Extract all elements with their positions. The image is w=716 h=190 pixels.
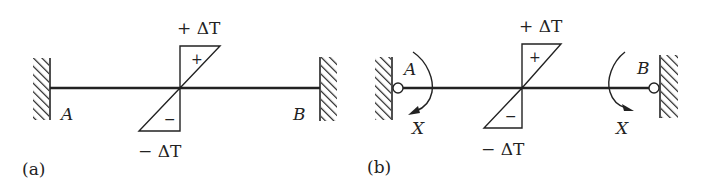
support-label-b-right: B	[292, 104, 306, 124]
support-label-b-b: B	[636, 58, 650, 78]
temperature-diagram-b	[484, 44, 561, 128]
support-label-a-b: A	[402, 59, 416, 79]
support-label-a-left: A	[59, 104, 73, 124]
temp-top-label-a: + ΔT	[177, 18, 221, 38]
temp-top-label-b: + ΔT	[519, 16, 563, 36]
temp-bottom-label-a: − ΔT	[138, 141, 182, 161]
caption-b: (b)	[367, 157, 391, 177]
wall-left-b	[375, 57, 392, 120]
sign-plus-a: +	[191, 51, 203, 67]
figure-canvas: + − + ΔT − ΔT A B (a) +	[0, 0, 716, 190]
hinge-left-icon	[393, 83, 403, 93]
fixed-support-left-a	[33, 58, 50, 120]
wall-right-b	[660, 55, 678, 118]
hinge-right-icon	[649, 83, 659, 93]
fixed-support-right-a	[320, 57, 337, 121]
moment-label-x-right: X	[614, 118, 629, 138]
caption-a: (a)	[22, 159, 45, 179]
sign-plus-b: +	[529, 49, 541, 65]
moment-arrow-right-icon	[609, 52, 634, 111]
panel-a: + − + ΔT − ΔT A B (a)	[22, 18, 337, 179]
moment-label-x-left: X	[410, 118, 425, 138]
panel-b: + − + ΔT − ΔT A B X X (b)	[367, 16, 678, 177]
sign-minus-b: −	[505, 108, 517, 124]
temp-bottom-label-b: − ΔT	[481, 139, 525, 159]
sign-minus-a: −	[164, 111, 176, 127]
